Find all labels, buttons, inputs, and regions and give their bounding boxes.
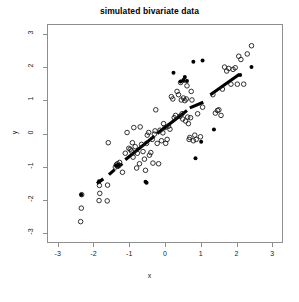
y-tick-label: -3 xyxy=(27,223,34,241)
x-tick-mark xyxy=(129,243,130,247)
data-point-filled xyxy=(238,73,242,77)
data-point-filled xyxy=(199,140,203,144)
data-point-open xyxy=(125,130,130,135)
data-point-filled xyxy=(185,79,189,83)
y-tick-label: 3 xyxy=(27,23,34,41)
y-tick-mark xyxy=(43,134,47,135)
data-point-open xyxy=(190,98,195,103)
data-point-open xyxy=(133,144,138,149)
data-point-open xyxy=(154,108,159,113)
data-point-open xyxy=(134,166,139,171)
data-point-filled xyxy=(145,181,149,185)
x-tick-mark xyxy=(165,243,166,247)
data-point-open xyxy=(138,125,143,130)
data-point-open xyxy=(241,82,246,87)
data-point-filled xyxy=(212,128,216,132)
data-point-open xyxy=(186,121,191,126)
data-point-open xyxy=(188,115,193,120)
y-tick-mark xyxy=(43,167,47,168)
data-point-open xyxy=(105,199,110,204)
data-point-open xyxy=(245,52,250,57)
data-point-open xyxy=(97,183,102,188)
x-tick-mark xyxy=(93,243,94,247)
data-points-layer xyxy=(48,25,282,242)
x-tick-label: -2 xyxy=(83,250,103,257)
fitted-dashed-line-segment xyxy=(109,170,115,175)
data-point-open xyxy=(189,89,194,94)
data-point-filled xyxy=(201,59,205,63)
data-point-open xyxy=(155,141,160,146)
data-point-open xyxy=(79,206,84,211)
data-point-open xyxy=(141,149,146,154)
data-point-filled xyxy=(250,65,254,69)
x-tick-label: -3 xyxy=(48,250,68,257)
data-point-open xyxy=(161,131,166,136)
data-point-open xyxy=(97,198,102,203)
data-point-open xyxy=(191,138,196,143)
data-point-open xyxy=(78,219,83,224)
data-point-filled xyxy=(183,75,187,79)
data-point-open xyxy=(185,84,190,89)
data-point-open xyxy=(219,113,224,118)
x-tick-mark xyxy=(272,243,273,247)
x-tick-label: -1 xyxy=(119,250,139,257)
data-point-open xyxy=(142,157,147,162)
data-point-open xyxy=(200,105,205,110)
data-point-open xyxy=(132,125,137,130)
data-point-open xyxy=(249,43,254,48)
plot-area xyxy=(47,24,283,243)
data-point-open xyxy=(123,151,128,156)
x-axis-label: x xyxy=(0,272,299,279)
x-tick-mark xyxy=(58,243,59,247)
data-point-open xyxy=(105,183,110,188)
x-tick-mark xyxy=(237,243,238,247)
data-point-open xyxy=(165,137,170,142)
data-point-filled xyxy=(194,156,198,160)
x-tick-label: 0 xyxy=(155,250,175,257)
y-tick-mark xyxy=(43,200,47,201)
scatter-plot-figure: simulated bivariate data -3-2-10123-3-2-… xyxy=(0,0,299,302)
y-tick-label: -1 xyxy=(27,156,34,174)
data-point-open xyxy=(229,82,234,87)
y-tick-mark xyxy=(43,233,47,234)
y-tick-label: 2 xyxy=(27,57,34,75)
x-tick-label: 2 xyxy=(227,250,247,257)
data-point-filled xyxy=(79,193,83,197)
x-tick-mark xyxy=(201,243,202,247)
y-axis-label: y xyxy=(11,124,18,142)
data-point-open xyxy=(131,155,136,160)
data-point-open xyxy=(198,135,203,140)
data-point-filled xyxy=(97,179,101,183)
data-point-filled xyxy=(172,71,176,75)
data-point-open xyxy=(194,137,199,142)
y-tick-label: 0 xyxy=(27,123,34,141)
data-point-open xyxy=(106,140,111,145)
y-tick-label: 1 xyxy=(27,90,34,108)
data-point-open xyxy=(120,170,125,175)
data-point-open xyxy=(151,161,156,166)
data-point-open xyxy=(137,161,142,166)
data-point-open xyxy=(159,138,164,143)
data-point-open xyxy=(235,82,240,87)
data-point-filled xyxy=(191,60,195,64)
data-point-open xyxy=(156,161,161,166)
page-title: simulated bivariate data xyxy=(0,6,299,16)
y-tick-mark xyxy=(43,34,47,35)
data-point-open xyxy=(195,111,200,116)
y-tick-mark xyxy=(43,67,47,68)
y-tick-label: -2 xyxy=(27,189,34,207)
y-tick-mark xyxy=(43,100,47,101)
data-point-open xyxy=(143,168,148,173)
x-tick-label: 1 xyxy=(191,250,211,257)
data-point-filled xyxy=(116,163,120,167)
x-tick-label: 3 xyxy=(262,250,282,257)
data-point-open xyxy=(97,191,102,196)
